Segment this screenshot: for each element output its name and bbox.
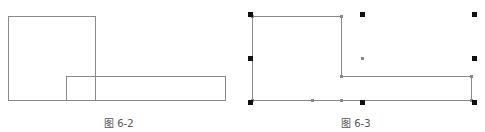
square-shape xyxy=(9,17,96,101)
vertex-marker xyxy=(470,75,473,78)
grip-handle[interactable] xyxy=(248,56,253,61)
figure-caption: 图 6-3 xyxy=(341,115,371,130)
grip-handle[interactable] xyxy=(248,12,253,17)
vertex-marker xyxy=(340,99,343,102)
vertex-marker xyxy=(340,75,343,78)
grip-handle[interactable] xyxy=(472,56,477,61)
figure-6-3 xyxy=(248,12,477,105)
grip-handle[interactable] xyxy=(472,100,477,105)
grip-handle[interactable] xyxy=(360,100,365,105)
long-rectangle-shape xyxy=(67,77,226,101)
grip-handle[interactable] xyxy=(472,12,477,17)
vertex-marker xyxy=(340,15,343,18)
figure-6-2 xyxy=(9,17,226,101)
vertex-markers xyxy=(251,15,473,102)
vertex-marker xyxy=(311,99,314,102)
center-marker xyxy=(361,57,364,60)
grip-handle[interactable] xyxy=(248,100,253,105)
figures-canvas xyxy=(0,0,485,132)
grip-handle[interactable] xyxy=(360,12,365,17)
figure-caption: 图 6-2 xyxy=(104,115,134,130)
